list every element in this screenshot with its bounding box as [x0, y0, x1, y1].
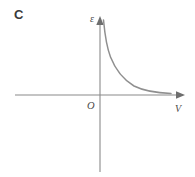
x-axis-arrowhead: [176, 91, 185, 98]
y-axis-arrowhead: [96, 16, 103, 25]
origin-label: O: [87, 100, 95, 111]
y-axis-label: ε: [90, 13, 94, 24]
figure-container: C ε V O: [0, 0, 195, 177]
x-axis-label: V: [175, 103, 183, 114]
data-curve-epsilon-vs-v: [104, 20, 172, 93]
plot-area: ε V O: [0, 0, 195, 177]
